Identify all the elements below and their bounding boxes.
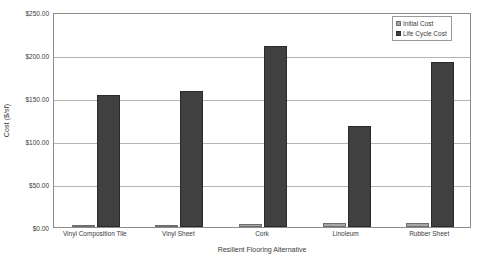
bar-group: [221, 14, 305, 227]
bar-initial-cost[interactable]: [323, 223, 346, 227]
legend-label: Life Cycle Cost: [403, 30, 447, 37]
legend-swatch-icon: [396, 21, 401, 26]
y-axis-title-text: Cost ($/sf): [4, 103, 11, 136]
y-axis-tick-label: $150.00: [26, 96, 50, 103]
x-axis-tick-labels: Vinyl Composition TileVinyl SheetCorkLin…: [53, 230, 471, 244]
bar-group: [388, 14, 471, 227]
y-axis-tick-label: $200.00: [26, 53, 50, 60]
bar-initial-cost[interactable]: [72, 225, 95, 227]
bar-group: [305, 14, 389, 227]
y-axis-tick-label: $50.00: [29, 182, 49, 189]
bar-group: [54, 14, 138, 227]
y-axis-tick-labels: $0.00$50.00$100.00$150.00$200.00$250.00: [14, 0, 52, 240]
plot-area: [53, 13, 471, 228]
bar-life-cycle-cost[interactable]: [348, 126, 371, 227]
x-axis-tick-label: Rubber Sheet: [409, 230, 449, 237]
bar-life-cycle-cost[interactable]: [431, 62, 454, 227]
x-axis-tick-label: Vinyl Sheet: [162, 230, 195, 237]
y-axis-tick-label: $250.00: [26, 10, 50, 17]
y-axis-tick-label: $0.00: [33, 225, 49, 232]
y-axis-title: Cost ($/sf): [0, 0, 14, 240]
bar-initial-cost[interactable]: [239, 224, 262, 227]
bar-chart: Cost ($/sf) $0.00$50.00$100.00$150.00$20…: [0, 0, 478, 261]
bar-group: [138, 14, 222, 227]
legend-swatch-icon: [396, 31, 401, 36]
legend-label: Initial Cost: [403, 20, 433, 27]
bar-life-cycle-cost[interactable]: [180, 91, 203, 227]
y-axis-tick-label: $100.00: [26, 139, 50, 146]
bar-life-cycle-cost[interactable]: [264, 46, 287, 227]
x-axis-title-text: Resilient Flooring Alternative: [218, 246, 307, 253]
bar-initial-cost[interactable]: [406, 223, 429, 227]
bar-initial-cost[interactable]: [155, 225, 178, 227]
x-axis-tick-label: Vinyl Composition Tile: [63, 230, 127, 237]
chart-legend: Initial CostLife Cycle Cost: [392, 16, 452, 41]
x-axis-tick-label: Cork: [255, 230, 269, 237]
bars-layer: [54, 14, 470, 227]
legend-item[interactable]: Life Cycle Cost: [396, 30, 447, 37]
x-axis-title: Resilient Flooring Alternative: [53, 246, 471, 253]
x-axis-tick-label: Linoleum: [332, 230, 358, 237]
legend-item[interactable]: Initial Cost: [396, 20, 447, 27]
bar-life-cycle-cost[interactable]: [97, 95, 120, 227]
